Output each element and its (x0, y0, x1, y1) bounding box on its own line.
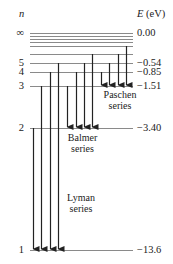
energy-value-n4: −0.85 (137, 66, 161, 77)
level-label-3: 3 (12, 80, 24, 91)
n-axis-header: n (19, 8, 24, 19)
paschen-series-label: Paschen series (95, 89, 145, 111)
paschen-label-line2: series (95, 100, 145, 111)
lyman-series-label: Lyman series (60, 192, 102, 214)
energy-value-n2: −3.40 (137, 122, 161, 133)
energy-value-0: 0.00 (137, 27, 155, 38)
level-label-1: 1 (12, 244, 24, 255)
level-label-2: 2 (12, 122, 24, 133)
balmer-series-label: Balmer series (60, 132, 105, 154)
energy-value-n1: −13.6 (137, 244, 161, 255)
lyman-label-line2: series (60, 203, 102, 214)
level-label-4: 4 (12, 66, 24, 77)
level-label-infinity: ∞ (12, 27, 24, 38)
lyman-label-line1: Lyman (60, 192, 102, 203)
balmer-label-line1: Balmer (60, 132, 105, 143)
energy-axis-header: E (eV) (137, 8, 165, 19)
paschen-label-line1: Paschen (95, 89, 145, 100)
balmer-label-line2: series (60, 143, 105, 154)
